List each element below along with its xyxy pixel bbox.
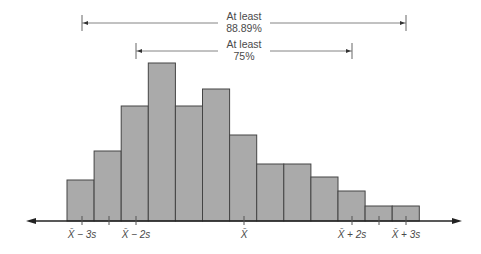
arrowhead-right-icon [346, 49, 351, 53]
annotation-line1: At least [226, 10, 261, 22]
range-bracket: At least88.89% [82, 10, 406, 34]
tick-label: X̄ + 2s [337, 228, 367, 240]
histogram-bar [203, 89, 230, 221]
chebyshev-histogram: X̄ − 3sX̄ − 2sX̄X̄ + 2sX̄ + 3s At least8… [0, 0, 481, 254]
arrowhead-right-icon [400, 21, 405, 25]
histogram-bar [94, 151, 121, 221]
tick-label: X̄ − 3s [67, 228, 97, 240]
annotation-line1: At least [226, 38, 261, 50]
annotation-percent: 75% [233, 50, 254, 62]
histogram-bar [67, 180, 94, 221]
tick-label: X̄ + 3s [391, 228, 421, 240]
histogram-bar [257, 164, 284, 221]
right-arrow-icon [452, 218, 462, 224]
annotation-percent: 88.89% [226, 22, 262, 34]
chebyshev-annotations: At least88.89%At least75% [82, 10, 406, 62]
histogram-bar [284, 164, 311, 221]
histogram-bar [121, 106, 148, 221]
arrowhead-left-icon [83, 21, 88, 25]
arrowhead-left-icon [137, 49, 142, 53]
histogram-bar [311, 177, 338, 221]
range-bracket: At least75% [136, 38, 352, 62]
histogram-bar [148, 63, 175, 221]
tick-label: X̄ − 2s [121, 228, 151, 240]
left-arrow-icon [26, 218, 36, 224]
histogram-bar [175, 106, 202, 221]
tick-label: X̄ [240, 228, 248, 240]
histogram-bars [67, 63, 419, 221]
histogram-bar [230, 135, 257, 221]
